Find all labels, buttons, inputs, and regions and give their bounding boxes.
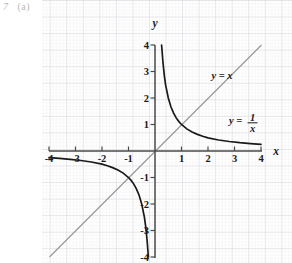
x-tick-label: -4 [45, 153, 54, 164]
hyperbola-label-numerator: 1 [250, 112, 255, 123]
y-axis-label: y [150, 17, 158, 30]
x-tick-label: 1 [179, 153, 184, 164]
graph-figure: -4 -3 -2 -1 1 2 3 4 4 3 2 1 -1 -2 -3 -4 … [0, 0, 292, 263]
y-tick-label: -3 [140, 225, 149, 236]
y-tick-label: -4 [140, 252, 149, 263]
x-tick-label: -2 [98, 153, 107, 164]
x-tick-label: -1 [124, 153, 133, 164]
reciprocal-function-graph: -4 -3 -2 -1 1 2 3 4 4 3 2 1 -1 -2 -3 -4 … [0, 0, 292, 263]
x-tick-label: -3 [71, 153, 80, 164]
y-tick-label: 1 [144, 119, 149, 130]
x-tick-label: 4 [258, 153, 264, 164]
y-tick-label: -1 [140, 172, 149, 183]
x-axis-label: x [272, 145, 279, 157]
y-tick-label: 4 [144, 40, 150, 51]
hyperbola-label-denominator: x [249, 123, 255, 134]
hyperbola-label-lhs: y = [227, 115, 242, 126]
y-tick-label: 2 [144, 93, 149, 104]
x-tick-label: 3 [232, 153, 237, 164]
y-tick-label: 3 [144, 66, 149, 77]
x-tick-label: 2 [205, 153, 210, 164]
y-tick-label: -2 [140, 199, 149, 210]
identity-line-label: y = x [209, 70, 232, 81]
